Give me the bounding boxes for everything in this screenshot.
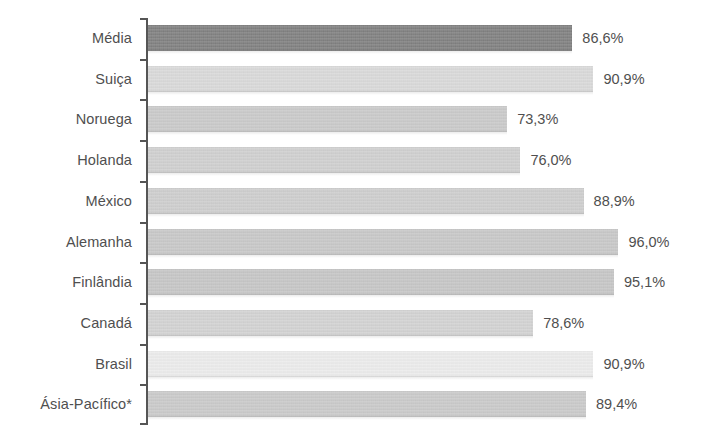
horizontal-bar-chart: Média Suiça Noruega Holanda México Alema…	[0, 0, 706, 446]
bar-shadow	[148, 335, 533, 339]
bar-value-label: 73,3%	[517, 110, 558, 128]
category-label-alemanha: Alemanha	[0, 234, 132, 250]
bar-shadow	[148, 213, 584, 217]
category-label-mexico: México	[0, 193, 132, 209]
bar-asia-pacifico	[148, 391, 586, 417]
bar-texture	[148, 269, 614, 295]
category-label-suica: Suiça	[0, 71, 132, 87]
bar-suica	[148, 66, 593, 92]
axis-tick	[140, 384, 147, 386]
bar-mexico	[148, 188, 584, 214]
bar-row: 96,0%	[148, 222, 688, 263]
bar-row: 89,4%	[148, 384, 688, 425]
bar-texture	[148, 66, 593, 92]
bar-value-label: 90,9%	[603, 355, 644, 373]
bar-texture	[148, 310, 533, 336]
category-label-brasil: Brasil	[0, 356, 132, 372]
bar-shadow	[148, 376, 593, 380]
bar-shadow	[148, 294, 614, 298]
bar-texture	[148, 188, 584, 214]
bar-shadow	[148, 131, 507, 135]
bar-noruega	[148, 106, 507, 132]
bar-brasil	[148, 351, 593, 377]
bar-shadow	[148, 50, 572, 54]
bar-value-label: 90,9%	[603, 70, 644, 88]
axis-tick	[140, 140, 147, 142]
bar-row: 88,9%	[148, 181, 688, 222]
bar-media	[148, 25, 572, 51]
axis-tick	[140, 59, 147, 61]
axis-tick	[140, 262, 147, 264]
bar-value-label: 95,1%	[624, 273, 665, 291]
bar-shadow	[148, 416, 586, 420]
bar-row: 95,1%	[148, 262, 688, 303]
bar-texture	[148, 25, 572, 51]
axis-tick	[140, 18, 147, 20]
bar-texture	[148, 351, 593, 377]
category-axis: Média Suiça Noruega Holanda México Alema…	[0, 18, 140, 425]
bar-holanda	[148, 147, 520, 173]
bar-value-label: 88,9%	[594, 192, 635, 210]
bar-row: 73,3%	[148, 99, 688, 140]
bar-value-label: 89,4%	[596, 395, 637, 413]
bar-texture	[148, 229, 618, 255]
category-label-asia-pacifico: Ásia-Pacífico*	[0, 396, 132, 412]
category-label-finlandia: Finlândia	[0, 274, 132, 290]
bar-row: 76,0%	[148, 140, 688, 181]
category-label-holanda: Holanda	[0, 152, 132, 168]
bar-value-label: 86,6%	[582, 29, 623, 47]
bar-row: 90,9%	[148, 59, 688, 100]
axis-tick	[140, 344, 147, 346]
bar-texture	[148, 147, 520, 173]
plot-area: 86,6% 90,9% 73,3% 76,0%	[148, 18, 688, 425]
category-label-media: Média	[0, 30, 132, 46]
bar-value-label: 96,0%	[628, 233, 669, 251]
bar-canada	[148, 310, 533, 336]
bar-row: 90,9%	[148, 344, 688, 385]
axis-tick	[140, 181, 147, 183]
axis-tick	[140, 222, 147, 224]
axis-tick	[140, 303, 147, 305]
bar-value-label: 76,0%	[530, 151, 571, 169]
bar-row: 86,6%	[148, 18, 688, 59]
bar-finlandia	[148, 269, 614, 295]
bar-alemanha	[148, 229, 618, 255]
bar-shadow	[148, 172, 520, 176]
bar-texture	[148, 106, 507, 132]
bar-texture	[148, 391, 586, 417]
bar-shadow	[148, 254, 618, 258]
bar-shadow	[148, 91, 593, 95]
bar-row: 78,6%	[148, 303, 688, 344]
category-label-noruega: Noruega	[0, 111, 132, 127]
axis-tick	[140, 99, 147, 101]
bar-value-label: 78,6%	[543, 314, 584, 332]
axis-tick	[140, 423, 147, 425]
category-label-canada: Canadá	[0, 315, 132, 331]
